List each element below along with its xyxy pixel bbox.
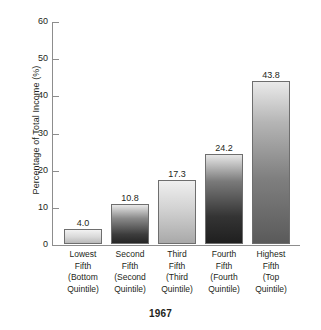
bar-value-label: 17.3 — [168, 169, 186, 179]
bar-second-fifth[interactable]: 10.8 — [111, 204, 149, 244]
bar-highest-fifth[interactable]: 43.8 — [252, 81, 290, 244]
x-label-line: Fifth — [242, 261, 300, 273]
x-label-line: (Top — [242, 272, 300, 284]
x-axis-labels: Lowest Fifth (Bottom Quintile) Second Fi… — [52, 249, 300, 301]
bar-fourth-fifth[interactable]: 24.2 — [205, 154, 243, 244]
x-label-line: Quintile) — [242, 284, 300, 296]
chart-title: 1967 — [0, 308, 321, 319]
bar-third-fifth[interactable]: 17.3 — [158, 180, 196, 244]
y-tick-label: 40 — [28, 90, 48, 101]
y-tick-mark — [53, 96, 59, 97]
y-tick-label: 20 — [28, 165, 48, 176]
bar-value-label: 4.0 — [77, 218, 90, 228]
y-tick-label: 0 — [28, 239, 48, 250]
y-tick-label: 10 — [28, 202, 48, 213]
y-tick-label: 50 — [28, 53, 48, 64]
y-tick-0: 0 — [52, 245, 59, 246]
y-tick-10: 10 — [52, 208, 59, 209]
y-tick-20: 20 — [52, 171, 59, 172]
bar-value-label: 24.2 — [215, 143, 233, 153]
bar-lowest-fifth[interactable]: 4.0 — [64, 229, 102, 244]
x-axis-line — [52, 245, 300, 246]
bar-value-label: 43.8 — [262, 70, 280, 80]
y-tick-mark — [53, 59, 59, 60]
y-tick-50: 50 — [52, 59, 59, 60]
bar-chart-figure: Percentage of Total Income (%) 60 50 40 … — [0, 0, 321, 330]
y-tick-30: 30 — [52, 134, 59, 135]
y-tick-mark — [53, 208, 59, 209]
y-tick-mark — [53, 22, 59, 23]
y-tick-40: 40 — [52, 96, 59, 97]
plot-area: 60 50 40 30 20 10 0 4.0 — [52, 22, 300, 245]
x-label-line: Highest — [242, 249, 300, 261]
y-tick-label: 30 — [28, 128, 48, 139]
y-tick-mark — [53, 245, 59, 246]
y-tick-label: 60 — [28, 16, 48, 27]
bar-value-label: 10.8 — [121, 193, 139, 203]
y-tick-mark — [53, 134, 59, 135]
x-label-highest-fifth: Highest Fifth (Top Quintile) — [242, 249, 300, 295]
y-tick-60: 60 — [52, 22, 59, 23]
y-tick-mark — [53, 171, 59, 172]
